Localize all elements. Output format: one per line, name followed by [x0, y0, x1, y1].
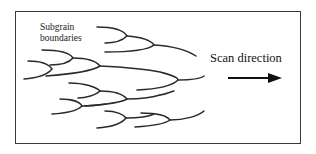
boundary-curve: [97, 27, 127, 43]
boundary-curve: [82, 104, 106, 106]
boundary-curve: [127, 95, 160, 99]
boundary-curve: [170, 111, 204, 120]
boundary-curve: [178, 76, 204, 80]
subgrain-label-line2: boundaries: [40, 33, 100, 44]
boundary-curve: [105, 36, 154, 52]
boundary-curve: [46, 58, 100, 76]
subgrain-label-line1: Subgrain: [40, 22, 100, 33]
boundary-curve: [154, 45, 196, 56]
boundary-curve: [160, 91, 174, 95]
boundary-curve: [52, 99, 82, 114]
boundary-curve: [100, 66, 178, 90]
boundary-curve: [126, 114, 154, 118]
boundary-curve: [97, 111, 126, 128]
scan-direction-label: Scan direction: [210, 51, 282, 66]
scan-direction-arrow-icon: [228, 73, 282, 83]
boundary-curve: [69, 83, 100, 98]
subgrain-boundary-diagram: Subgrain boundaries Scan direction: [0, 0, 316, 154]
boundary-curve: [42, 50, 73, 65]
subgrain-boundaries-label: Subgrain boundaries: [40, 22, 100, 44]
